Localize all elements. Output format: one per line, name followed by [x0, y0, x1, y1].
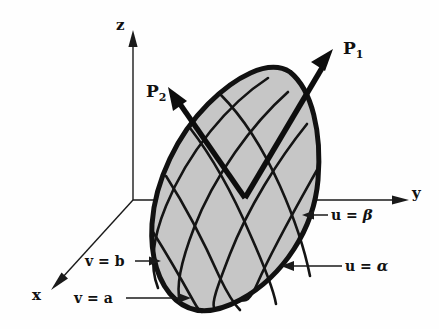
beta-symbol: β	[363, 206, 373, 224]
p1-arrowhead	[311, 49, 333, 71]
z-axis-label: z	[116, 18, 125, 33]
p1-symbol: P	[343, 38, 356, 58]
z-axis-arrowhead	[128, 30, 137, 47]
u-beta-prefix: u =	[331, 207, 363, 223]
p2-symbol: P	[146, 81, 159, 101]
v-b-label: v = b	[85, 254, 124, 268]
b-symbol: b	[115, 253, 125, 269]
v-b-prefix: v =	[85, 253, 115, 269]
a-symbol: a	[104, 290, 113, 306]
p1-vector-label: P1	[343, 40, 363, 60]
y-axis-label: y	[412, 186, 421, 201]
p2-subscript: 2	[159, 91, 167, 104]
u-alpha-prefix: u =	[345, 258, 377, 274]
u-beta-label: u = β	[331, 208, 373, 223]
v-a-prefix: v =	[74, 290, 104, 306]
p2-vector-label: P2	[146, 83, 166, 103]
v-a-label: v = a	[74, 291, 113, 305]
figure-canvas: z y x P1 P2 u = β u = α v = b v = a	[0, 0, 439, 329]
y-axis-arrowhead	[392, 195, 409, 204]
surface-diagram	[0, 0, 439, 329]
u-alpha-label: u = α	[345, 259, 388, 274]
p1-subscript: 1	[356, 48, 364, 61]
alpha-symbol: α	[377, 257, 389, 275]
x-axis-label: x	[32, 288, 41, 303]
